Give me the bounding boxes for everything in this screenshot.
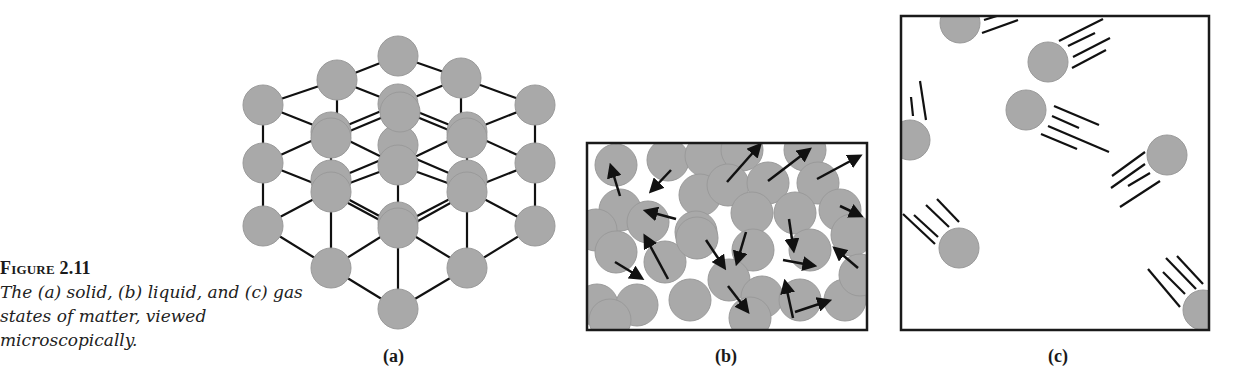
panel-label-b: (b) [715, 346, 737, 367]
liquid-panel [575, 129, 881, 341]
gas-panel [890, 3, 1223, 330]
panel-label-a: (a) [383, 346, 404, 367]
panel-label-c: (c) [1048, 346, 1068, 367]
states-of-matter-diagram [0, 0, 1250, 392]
